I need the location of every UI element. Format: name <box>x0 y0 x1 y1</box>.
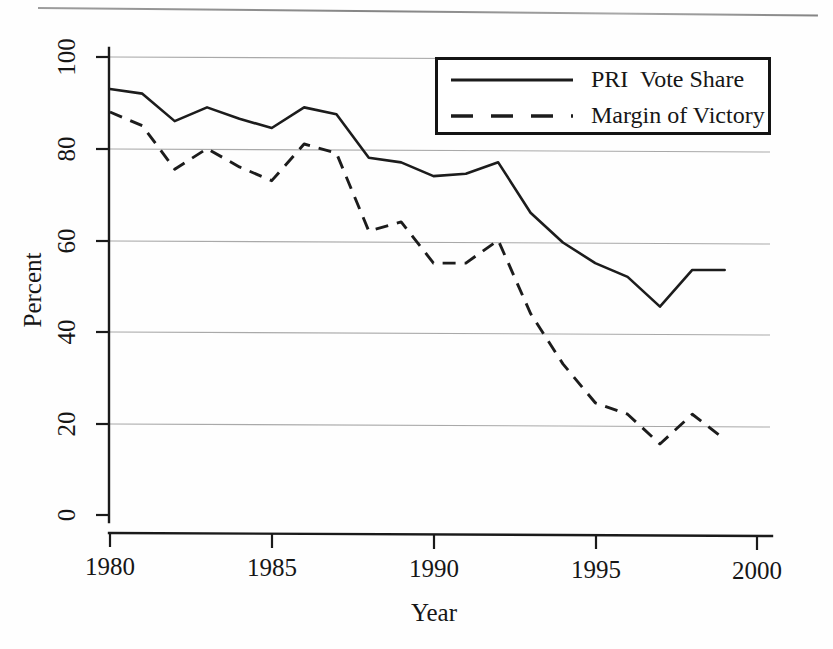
gridline-80 <box>110 149 770 152</box>
y-axis-title: Percent <box>19 252 46 327</box>
x-axis-line <box>109 533 772 536</box>
gridline-20 <box>110 424 770 427</box>
legend-dashed-line-icon <box>449 106 575 126</box>
x-tick-label-2000: 2000 <box>732 557 782 584</box>
series-margin-of-victory <box>110 112 725 444</box>
y-tick-label-100: 100 <box>53 38 80 76</box>
x-tick-label-1980: 1980 <box>85 553 135 580</box>
y-tick-label-60: 60 <box>53 229 80 254</box>
page-canvas: 100 80 60 40 20 0 Percent 1980 1985 <box>0 0 833 649</box>
x-tick-label-1985: 1985 <box>247 554 297 581</box>
legend-label-margin-of-victory: Margin of Victory <box>591 102 765 129</box>
y-axis <box>96 48 110 522</box>
chart-legend: PRI Vote Share Margin of Victory <box>435 57 771 135</box>
x-tick-label-1995: 1995 <box>571 556 621 583</box>
y-tick-label-40: 40 <box>53 320 80 345</box>
legend-entry-margin-of-victory: Margin of Victory <box>438 96 768 135</box>
legend-entry-pri-vote-share: PRI Vote Share <box>438 60 768 99</box>
x-axis <box>109 533 772 550</box>
legend-solid-line-icon <box>449 70 575 90</box>
y-tick-labels: 100 80 60 40 20 0 <box>53 38 80 521</box>
y-tick-label-0: 0 <box>53 509 80 522</box>
gridline-60 <box>110 241 770 244</box>
x-tick-label-1990: 1990 <box>409 555 459 582</box>
y-tick-label-20: 20 <box>53 412 80 437</box>
legend-label-pri-vote-share: PRI Vote Share <box>591 66 744 93</box>
x-tick-labels: 1980 1985 1990 1995 2000 <box>85 553 782 584</box>
x-axis-title: Year <box>411 599 458 626</box>
gridline-40 <box>110 332 770 335</box>
y-tick-label-80: 80 <box>53 137 80 162</box>
